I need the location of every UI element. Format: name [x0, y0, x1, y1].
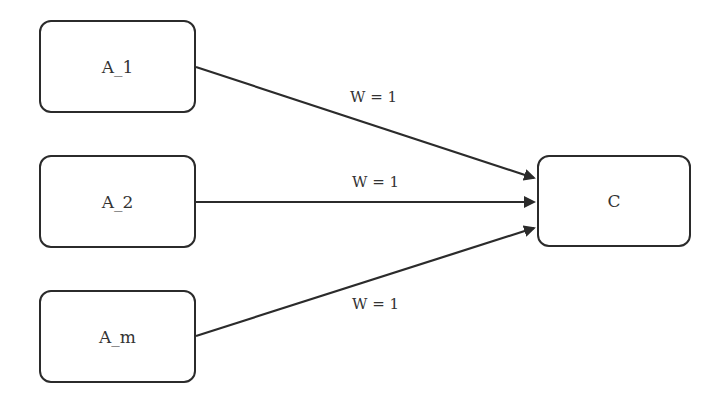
edge-am-c	[196, 228, 534, 336]
edge-am-weight-label: W = 1	[352, 295, 399, 313]
node-am-label: A_m	[99, 327, 136, 347]
edge-a2-weight-label: W = 1	[352, 173, 399, 191]
edge-a1-weight-label: W = 1	[350, 88, 397, 106]
node-a2-label: A_2	[102, 192, 134, 212]
edge-a1-c	[196, 67, 534, 178]
node-a1-label: A_1	[102, 57, 134, 77]
node-c: C	[537, 155, 691, 247]
node-am: A_m	[39, 290, 196, 383]
node-a2: A_2	[39, 155, 196, 248]
node-a1: A_1	[39, 20, 196, 113]
node-c-label: C	[607, 191, 620, 211]
